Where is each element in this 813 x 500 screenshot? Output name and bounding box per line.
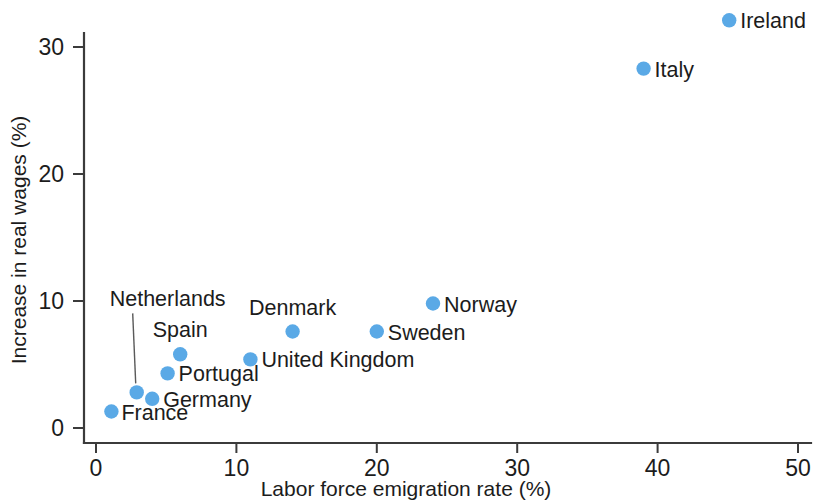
y-tick-label: 30 <box>38 34 64 60</box>
data-markers-group <box>104 13 736 419</box>
x-tick-label: 0 <box>90 455 103 481</box>
data-point-marker[interactable] <box>160 366 174 380</box>
data-point-marker[interactable] <box>173 347 187 361</box>
y-tick-label: 0 <box>51 415 64 441</box>
data-point-label: Italy <box>655 58 695 82</box>
y-axis-title: Increase in real wages (%) <box>7 116 30 365</box>
y-tick-label: 20 <box>38 161 64 187</box>
data-point-label: Norway <box>444 293 517 317</box>
y-tick-label: 10 <box>38 288 64 314</box>
data-point-marker[interactable] <box>285 324 299 338</box>
scatter-chart-figure: 01020304050 0102030 FranceNetherlandsGer… <box>0 0 813 500</box>
data-point-label: Ireland <box>740 9 806 33</box>
data-point-label: Netherlands <box>110 287 226 311</box>
data-point-label: Germany <box>163 388 252 412</box>
y-tick-labels: 0102030 <box>38 34 64 441</box>
data-point-marker[interactable] <box>370 324 384 338</box>
x-tick-label: 40 <box>645 455 671 481</box>
data-point-label: Spain <box>153 318 208 342</box>
x-axis-title: Labor force emigration rate (%) <box>261 477 552 500</box>
data-point-label: Sweden <box>388 321 466 345</box>
x-tick-label: 10 <box>224 455 250 481</box>
data-point-label: United Kingdom <box>261 348 414 372</box>
data-point-label: Denmark <box>249 296 336 320</box>
data-point-marker[interactable] <box>636 61 650 75</box>
data-point-marker[interactable] <box>426 296 440 310</box>
data-point-label: Portugal <box>179 362 259 386</box>
data-point-labels-group: FranceNetherlandsGermanyPortugalSpainUni… <box>110 9 806 424</box>
plot-area: 01020304050 0102030 FranceNetherlandsGer… <box>0 0 813 500</box>
label-leader-line <box>133 313 136 383</box>
x-tick-label: 50 <box>785 455 811 481</box>
data-point-marker[interactable] <box>130 385 144 399</box>
data-point-marker[interactable] <box>722 13 736 27</box>
leader-lines-group <box>133 313 136 383</box>
data-point-marker[interactable] <box>104 404 118 418</box>
